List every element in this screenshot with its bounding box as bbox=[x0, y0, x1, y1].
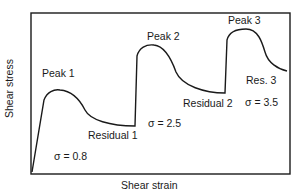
peak-2-label: Peak 2 bbox=[147, 31, 180, 42]
peak-1-label: Peak 1 bbox=[42, 68, 75, 79]
sigma-1-label: σ = 0.8 bbox=[54, 151, 87, 162]
peak-3-label: Peak 3 bbox=[228, 15, 261, 26]
x-axis-label: Shear strain bbox=[121, 180, 178, 191]
sigma-2-label: σ = 2.5 bbox=[148, 118, 181, 129]
residual-2-label: Residual 2 bbox=[183, 98, 233, 109]
residual-1-label: Residual 1 bbox=[88, 130, 138, 141]
sigma-3-label: σ = 3.5 bbox=[245, 97, 278, 108]
residual-3-label: Res. 3 bbox=[246, 75, 276, 86]
y-axis-label: Shear stress bbox=[4, 59, 15, 118]
